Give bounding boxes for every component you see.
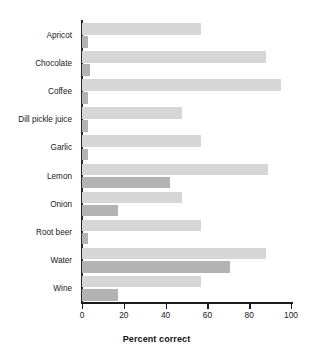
bar-series-dark [82, 149, 88, 161]
bar-series-dark [82, 177, 170, 189]
bar-group: Garlic [82, 134, 291, 162]
bar-series-dark [82, 120, 88, 132]
x-tick [82, 304, 83, 309]
x-tick-label: 20 [104, 310, 144, 320]
bar-group: Water [82, 247, 291, 275]
bar-group: Wine [82, 275, 291, 303]
category-label: Chocolate [0, 59, 72, 68]
bar-group: Onion [82, 191, 291, 219]
x-tick-label: 80 [229, 310, 269, 320]
bar-series-light [82, 135, 201, 147]
x-tick [207, 304, 208, 309]
x-tick [166, 304, 167, 309]
bar-series-dark [82, 261, 230, 273]
bar-group: Chocolate [82, 50, 291, 78]
bar-series-dark [82, 289, 118, 301]
x-axis-ticks: 020406080100 [82, 304, 291, 328]
category-label: Wine [0, 284, 72, 293]
bar-series-light [82, 107, 182, 119]
bar-series-dark [82, 36, 88, 48]
category-label: Water [0, 256, 72, 265]
category-label: Onion [0, 200, 72, 209]
bar-series-light [82, 248, 266, 260]
x-tick-label: 40 [146, 310, 186, 320]
category-label: Coffee [0, 87, 72, 96]
x-tick [291, 304, 292, 309]
category-label: Apricot [0, 31, 72, 40]
bar-series-light [82, 192, 182, 204]
bar-series-light [82, 79, 281, 91]
x-axis-title: Percent correct [0, 334, 313, 344]
bar-group: Lemon [82, 163, 291, 191]
category-label: Root beer [0, 228, 72, 237]
bar-series-light [82, 220, 201, 232]
bar-series-dark [82, 233, 88, 245]
bar-series-dark [82, 205, 118, 217]
plot-area: ApricotChocolateCoffeeDill pickle juiceG… [82, 22, 291, 303]
x-tick [249, 304, 250, 309]
x-tick [124, 304, 125, 309]
bar-chart: ApricotChocolateCoffeeDill pickle juiceG… [0, 0, 313, 359]
bar-series-dark [82, 92, 88, 104]
bar-series-light [82, 51, 266, 63]
x-tick-label: 100 [271, 310, 311, 320]
bar-series-light [82, 164, 268, 176]
bar-series-light [82, 276, 201, 288]
bar-series-light [82, 23, 201, 35]
x-tick-label: 60 [187, 310, 227, 320]
category-label: Dill pickle juice [0, 115, 72, 124]
category-label: Garlic [0, 143, 72, 152]
category-label: Lemon [0, 172, 72, 181]
x-tick-label: 0 [62, 310, 102, 320]
bar-group: Dill pickle juice [82, 106, 291, 134]
bar-group: Coffee [82, 78, 291, 106]
bar-group: Root beer [82, 219, 291, 247]
bar-series-dark [82, 64, 90, 76]
bar-group: Apricot [82, 22, 291, 50]
